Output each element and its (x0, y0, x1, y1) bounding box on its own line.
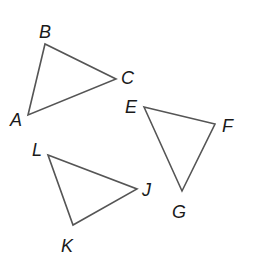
vertex-label-a: A (9, 110, 22, 130)
triangle-outline (144, 107, 215, 191)
vertex-label-k: K (61, 236, 74, 256)
triangle-abc: ABC (9, 22, 135, 130)
triangle-outline (48, 155, 137, 225)
triangle-ljk: LJK (32, 140, 152, 256)
vertex-label-g: G (172, 202, 186, 222)
vertex-label-f: F (222, 116, 234, 136)
diagram-svg: ABCEFGLJK (0, 0, 261, 268)
vertex-label-l: L (32, 140, 42, 160)
triangle-outline (28, 44, 116, 115)
triangle-efg: EFG (125, 97, 234, 222)
vertex-label-j: J (141, 180, 152, 200)
vertex-label-b: B (39, 22, 51, 42)
vertex-label-c: C (121, 68, 135, 88)
triangle-diagram: ABCEFGLJK (0, 0, 261, 268)
vertex-label-e: E (125, 97, 138, 117)
